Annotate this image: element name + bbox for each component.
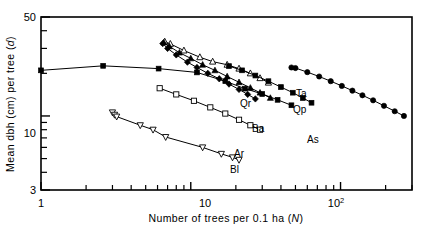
mean-dbh-vs-density-chart: 50 10 3 1 10 102 Number of trees per 0.1… [0,0,434,228]
chart-background [0,0,434,228]
x-axis-title: Number of trees per 0.1 ha (N) [149,212,304,224]
x-tick-label-100-base: 10 [328,197,340,209]
data-point-ba [290,90,295,95]
data-point-ar [236,117,241,122]
data-point-flat-upper [101,63,106,68]
data-point-ba [227,64,232,69]
data-point-as [371,98,376,103]
data-point-as [392,109,397,114]
data-point-ar [223,111,228,116]
data-point-ar [157,86,162,91]
data-point-ba [279,85,284,90]
data-point-as [350,88,355,93]
data-point-ar [208,105,213,110]
y-axis-title: Mean dbh (cm) per tree (d) [4,36,16,172]
x-tick-label-100-exponent: 2 [340,196,344,205]
series-label-as: As [307,134,319,145]
data-point-as [339,83,344,88]
x-tick-label-1: 1 [38,197,44,209]
y-axis-title-text: Mean dbh (cm) per tree [4,53,16,172]
y-axis-title-paren-close: ) [4,36,16,40]
data-point-ar [174,92,179,97]
data-point-as [360,93,365,98]
series-label-ta: Ta [296,88,307,99]
data-point-flat-upper [156,66,161,71]
series-label-qr: Qr [240,98,252,109]
x-axis-title-paren-close: ) [300,212,304,224]
data-point-ar [191,98,196,103]
data-point-ba [253,73,258,78]
x-axis-title-text: Number of trees per 0.1 ha [149,212,285,224]
x-axis-title-paren-open: ( [284,212,291,224]
series-label-ba: Ba [252,123,265,134]
data-point-ba [309,100,314,105]
y-tick-label-10: 10 [24,127,36,139]
y-axis-title-paren-open: ( [4,46,16,53]
series-label-qp: Qp [293,104,307,115]
data-point-ba [266,79,271,84]
y-tick-label-50: 50 [24,11,36,23]
series-label-ar: Ar [234,148,245,159]
data-point-flat-upper [39,68,44,73]
x-tick-label-10: 10 [199,197,211,209]
data-point-as [328,79,333,84]
x-axis-title-symbol: N [292,212,300,224]
data-point-as [317,74,322,79]
figure-container: 50 10 3 1 10 102 Number of trees per 0.1… [0,0,434,228]
data-point-flat-upper [275,97,280,102]
data-point-as [401,113,406,118]
data-point-ba [240,68,245,73]
data-point-as [381,103,386,108]
data-point-as [305,70,310,75]
series-label-bl: Bl [230,164,239,175]
data-point-as [293,65,298,70]
data-point-flat-upper [243,86,248,91]
y-tick-label-3: 3 [30,184,36,196]
